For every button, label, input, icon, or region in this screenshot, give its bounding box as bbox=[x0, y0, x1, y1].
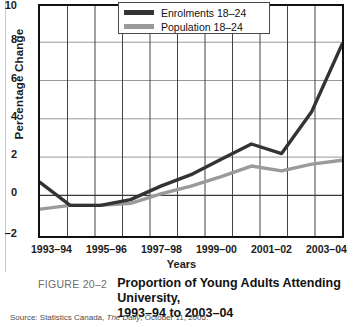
legend-item-population: Population 18–24 bbox=[124, 20, 264, 33]
x-tick-2003-04: 2003–04 bbox=[306, 243, 347, 255]
figure-title-line1: Proportion of Young Adults Attending Uni… bbox=[117, 276, 341, 305]
x-tick-2001-02: 2001–02 bbox=[251, 243, 292, 255]
source-publication: The Daily bbox=[107, 313, 141, 322]
source-prefix: Source: Statistics Canada, bbox=[10, 313, 107, 322]
x-tick-1999-00: 1999–00 bbox=[196, 243, 237, 255]
figure-container: Percentage Change 10 8 6 4 2 0 –2 bbox=[0, 0, 363, 327]
series-plot bbox=[40, 6, 342, 236]
plot-frame bbox=[38, 4, 344, 238]
legend-label-enrolments: Enrolments 18–24 bbox=[161, 7, 246, 19]
y-tick-6: 6 bbox=[0, 73, 17, 84]
series-line-enrolments bbox=[40, 44, 342, 205]
chart-area: Percentage Change 10 8 6 4 2 0 –2 bbox=[0, 0, 363, 262]
y-tick-neg2: –2 bbox=[0, 228, 17, 239]
legend-swatch-icon-population bbox=[124, 24, 154, 29]
x-tick-1995-96: 1995–96 bbox=[86, 243, 127, 255]
legend-item-enrolments: Enrolments 18–24 bbox=[124, 6, 264, 19]
y-tick-10: 10 bbox=[0, 0, 17, 11]
y-tick-0: 0 bbox=[0, 187, 17, 198]
legend-label-population: Population 18–24 bbox=[161, 21, 243, 33]
y-tick-8: 8 bbox=[0, 34, 17, 45]
source-suffix: , October 11, 2005. bbox=[140, 313, 208, 322]
series-line-population bbox=[40, 160, 342, 209]
legend-swatch-icon-enrolments bbox=[124, 10, 154, 15]
x-tick-1993-94: 1993–94 bbox=[31, 243, 72, 255]
figure-source: Source: Statistics Canada, The Daily, Oc… bbox=[10, 313, 350, 322]
y-tick-2: 2 bbox=[0, 149, 17, 160]
y-tick-4: 4 bbox=[0, 111, 17, 122]
chart-legend: Enrolments 18–24 Population 18–24 bbox=[118, 2, 270, 34]
x-axis-label: Years bbox=[0, 258, 363, 270]
x-tick-1997-98: 1997–98 bbox=[141, 243, 182, 255]
